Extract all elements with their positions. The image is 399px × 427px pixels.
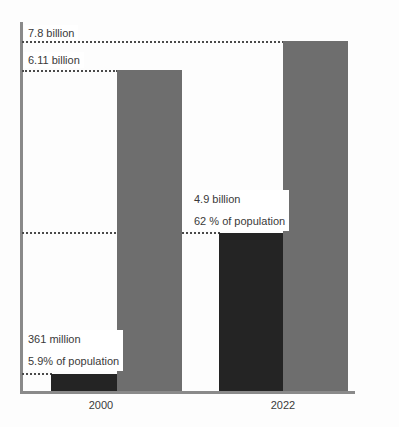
- gridline-7-8-billion: [22, 41, 284, 43]
- population-internet-users-bar-chart: 7.8 billion 6.11 billion 361 million 5.9…: [0, 0, 399, 427]
- gridline-361-million: [22, 373, 52, 375]
- value-label-2022-value: 4.9 billion: [194, 193, 240, 205]
- x-tick-2022: 2022: [248, 399, 318, 411]
- value-label-2000-share: 5.9% of population: [28, 354, 119, 369]
- bar-users-2000: [51, 374, 117, 391]
- label-7-8-billion: 7.8 billion: [24, 25, 78, 41]
- bar-population-2000: [117, 70, 182, 391]
- value-label-2022-share: 62 % of population: [194, 214, 285, 229]
- gridline-6-11-billion: [22, 70, 118, 72]
- y-axis-line: [20, 22, 23, 393]
- label-6-11-billion: 6.11 billion: [24, 52, 84, 68]
- value-label-2000: 361 million 5.9% of population: [24, 330, 123, 371]
- x-axis-line: [20, 391, 355, 394]
- bar-users-2022: [219, 233, 283, 391]
- value-label-2000-value: 361 million: [28, 333, 81, 345]
- x-tick-2000: 2000: [66, 399, 136, 411]
- value-label-2022: 4.9 billion 62 % of population: [190, 190, 289, 231]
- bar-population-2022: [283, 41, 348, 391]
